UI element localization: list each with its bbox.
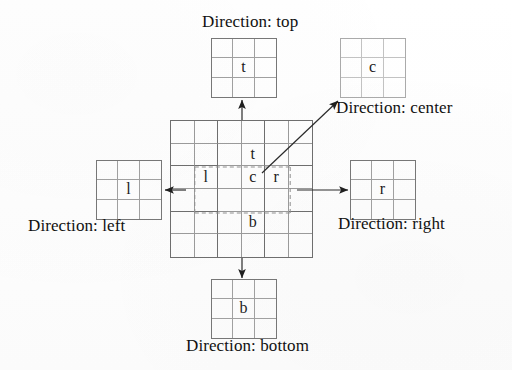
patch-glyph-top: t <box>241 59 245 75</box>
patch-cell-center: t <box>233 58 254 77</box>
glyph-left: l <box>204 169 208 185</box>
grid-cell <box>289 166 313 189</box>
patch-cell <box>212 299 233 318</box>
patch-top: t <box>211 38 277 98</box>
glyph-top: t <box>251 146 255 162</box>
patch-cell <box>255 280 276 299</box>
glyph-bottom: b <box>249 214 257 230</box>
grid-cell <box>195 234 219 257</box>
patch-cell-center: r <box>372 180 393 199</box>
patch-cell <box>212 78 233 97</box>
grid-cell <box>218 234 242 257</box>
patch-right: r <box>350 160 416 220</box>
grid-cell <box>265 189 289 212</box>
patch-cell-center: c <box>362 58 383 77</box>
patch-cell <box>384 78 405 97</box>
grid-cell <box>195 212 219 235</box>
grid-cell <box>195 189 219 212</box>
patch-cell <box>362 39 383 58</box>
grid-cell <box>171 189 195 212</box>
patch-cell <box>351 161 372 180</box>
grid-cell <box>171 212 195 235</box>
glyph-right: r <box>274 169 279 185</box>
grid-cell <box>218 166 242 189</box>
patch-glyph-right: r <box>380 181 385 197</box>
patch-cell <box>341 39 362 58</box>
grid-cell <box>265 121 289 144</box>
grid-cell <box>171 234 195 257</box>
grid-cell <box>289 189 313 212</box>
patch-cell <box>140 161 161 180</box>
grid-cell <box>171 121 195 144</box>
patch-cell <box>118 161 139 180</box>
grid-cell <box>265 234 289 257</box>
grid-cell <box>218 189 242 212</box>
grid-cell <box>218 212 242 235</box>
label-direction-left: Direction: left <box>28 216 125 236</box>
patch-cell <box>140 180 161 199</box>
patch-cell <box>212 58 233 77</box>
patch-glyph-center: c <box>369 59 376 75</box>
grid-cell <box>195 144 219 167</box>
grid-cell <box>289 212 313 235</box>
grid-cell-top-glyph: t <box>242 144 266 167</box>
grid-cell <box>265 144 289 167</box>
patch-glyph-left: l <box>126 181 130 197</box>
glyph-center: c <box>249 169 256 185</box>
patch-cell <box>140 200 161 219</box>
patch-cell-center: b <box>233 299 254 318</box>
patch-cell <box>362 78 383 97</box>
patch-cell <box>233 280 254 299</box>
grid-cell-bottom-glyph: b <box>242 212 266 235</box>
patch-cell <box>233 39 254 58</box>
patch-cell <box>97 161 118 180</box>
grid-cell <box>171 166 195 189</box>
grid-cell-left-glyph: l <box>195 166 219 189</box>
patch-cell <box>341 78 362 97</box>
patch-cell <box>97 180 118 199</box>
patch-center: c <box>340 38 406 98</box>
patch-bottom: b <box>211 279 277 339</box>
patch-cell <box>372 161 393 180</box>
patch-left: l <box>96 160 162 220</box>
patch-cell <box>341 58 362 77</box>
grid-cell <box>242 234 266 257</box>
label-direction-top: Direction: top <box>202 12 298 32</box>
patch-cell-center: l <box>118 180 139 199</box>
grid-cell <box>289 121 313 144</box>
grid-cell <box>289 144 313 167</box>
grid-cell <box>171 144 195 167</box>
patch-cell <box>255 299 276 318</box>
grid-cell <box>265 212 289 235</box>
grid-cell <box>218 121 242 144</box>
grid-cell-right-glyph: r <box>265 166 289 189</box>
patch-cell <box>233 78 254 97</box>
label-direction-right: Direction: right <box>338 214 445 234</box>
main-grid: t l c r b <box>170 120 313 258</box>
patch-cell <box>255 78 276 97</box>
patch-cell <box>351 180 372 199</box>
patch-glyph-bottom: b <box>239 300 247 316</box>
figure-canvas: t l c r b <box>0 0 512 370</box>
patch-cell <box>384 39 405 58</box>
grid-cell <box>195 121 219 144</box>
grid-cell-center-glyph: c <box>242 166 266 189</box>
grid-cell <box>242 189 266 212</box>
label-direction-center: Direction: center <box>336 98 452 118</box>
grid-cell <box>289 234 313 257</box>
patch-cell <box>255 39 276 58</box>
label-direction-bottom: Direction: bottom <box>186 336 309 356</box>
patch-cell <box>394 180 415 199</box>
patch-cell <box>212 39 233 58</box>
grid-cell <box>218 144 242 167</box>
patch-cell <box>255 58 276 77</box>
patch-cell <box>384 58 405 77</box>
patch-cell <box>212 280 233 299</box>
grid-cell <box>242 121 266 144</box>
patch-cell <box>394 161 415 180</box>
